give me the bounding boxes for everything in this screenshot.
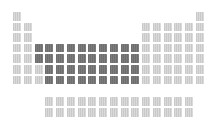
lanthanides-cell <box>88 97 96 106</box>
lanthanides-cell <box>164 97 172 106</box>
transition-metal-cell <box>131 65 139 74</box>
element-cell <box>196 44 204 53</box>
transition-metal-cell <box>67 44 75 53</box>
element-cell <box>142 33 150 42</box>
transition-metal-cell <box>110 44 118 53</box>
element-cell <box>153 33 161 42</box>
actinides-cell <box>142 108 150 117</box>
transition-metal-cell <box>67 76 75 85</box>
transition-metal-cell <box>121 76 129 85</box>
actinides-cell <box>121 108 129 117</box>
element-cell <box>164 44 172 53</box>
element-cell <box>24 33 32 42</box>
element-cell <box>174 44 182 53</box>
transition-metal-cell <box>121 65 129 74</box>
actinides-cell <box>45 108 53 117</box>
element-cell <box>24 76 32 85</box>
transition-metal-cell <box>45 44 53 53</box>
element-cell <box>174 76 182 85</box>
transition-metal-cell <box>45 76 53 85</box>
transition-metal-cell <box>78 65 86 74</box>
element-cell <box>24 65 32 74</box>
transition-metal-cell <box>131 76 139 85</box>
lanthanides-cell <box>110 97 118 106</box>
actinides-cell <box>185 108 193 117</box>
transition-metal-cell <box>45 54 53 63</box>
transition-metal-cell <box>35 54 43 63</box>
element-cell <box>35 65 43 74</box>
element-cell <box>24 44 32 53</box>
element-cell <box>185 65 193 74</box>
transition-metal-cell <box>67 54 75 63</box>
element-cell <box>174 33 182 42</box>
actinides-cell <box>56 108 64 117</box>
transition-metal-cell <box>110 76 118 85</box>
element-cell <box>185 33 193 42</box>
element-cell <box>153 54 161 63</box>
element-cell <box>142 23 150 32</box>
lanthanides-cell <box>121 97 129 106</box>
element-cell <box>174 23 182 32</box>
transition-metal-cell <box>78 54 86 63</box>
transition-metal-cell <box>88 44 96 53</box>
transition-metal-cell <box>35 44 43 53</box>
element-cell <box>185 54 193 63</box>
element-cell <box>164 76 172 85</box>
lanthanides-cell <box>67 97 75 106</box>
element-cell <box>196 23 204 32</box>
transition-metal-cell <box>88 76 96 85</box>
element-cell <box>13 76 21 85</box>
transition-metal-cell <box>88 54 96 63</box>
transition-metal-cell <box>78 76 86 85</box>
lanthanides-cell <box>78 97 86 106</box>
transition-metal-cell <box>56 54 64 63</box>
actinides-cell <box>174 108 182 117</box>
actinides-cell <box>88 108 96 117</box>
element-cell <box>13 44 21 53</box>
actinides-cell <box>153 108 161 117</box>
transition-metal-cell <box>99 76 107 85</box>
lanthanides-cell <box>185 97 193 106</box>
actinides-cell <box>110 108 118 117</box>
element-cell <box>24 23 32 32</box>
actinides-cell <box>67 108 75 117</box>
element-cell <box>174 54 182 63</box>
element-cell <box>24 54 32 63</box>
periodic-table-icon <box>0 0 218 123</box>
element-cell <box>185 44 193 53</box>
element-cell <box>13 33 21 42</box>
transition-metal-cell <box>88 65 96 74</box>
element-cell <box>196 12 204 21</box>
transition-metal-cell <box>99 54 107 63</box>
transition-metal-cell <box>99 65 107 74</box>
transition-metal-cell <box>131 54 139 63</box>
transition-metal-cell <box>131 44 139 53</box>
element-cell <box>196 54 204 63</box>
actinides-cell <box>78 108 86 117</box>
element-cell <box>153 76 161 85</box>
transition-metal-cell <box>56 76 64 85</box>
transition-metal-cell <box>56 44 64 53</box>
transition-metal-cell <box>121 44 129 53</box>
element-cell <box>13 12 21 21</box>
lanthanides-cell <box>56 97 64 106</box>
lanthanides-cell <box>142 97 150 106</box>
transition-metal-cell <box>110 65 118 74</box>
element-cell <box>142 54 150 63</box>
element-cell <box>164 23 172 32</box>
element-cell <box>196 76 204 85</box>
element-cell <box>174 65 182 74</box>
actinides-cell <box>131 108 139 117</box>
lanthanides-cell <box>99 97 107 106</box>
element-cell <box>196 65 204 74</box>
element-cell <box>164 54 172 63</box>
element-cell <box>13 54 21 63</box>
transition-metal-cell <box>67 65 75 74</box>
element-cell <box>196 33 204 42</box>
lanthanides-cell <box>45 97 53 106</box>
element-cell <box>164 33 172 42</box>
element-cell <box>142 76 150 85</box>
element-cell <box>153 65 161 74</box>
element-cell <box>13 23 21 32</box>
element-cell <box>142 44 150 53</box>
